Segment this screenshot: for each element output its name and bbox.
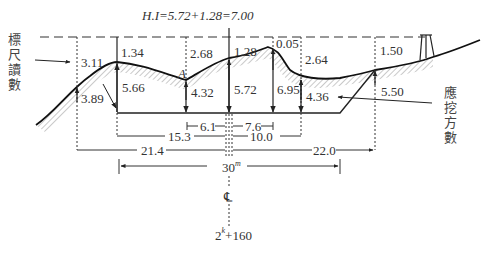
- svg-text:讀: 讀: [8, 62, 21, 77]
- rod-reading-4: 1.28: [234, 44, 257, 59]
- cut-depth-1: 3.89: [81, 91, 104, 106]
- cut-depth-4: 5.72: [234, 82, 257, 97]
- cut-depth-5: 6.95: [277, 82, 300, 97]
- svg-text:尺: 尺: [8, 47, 21, 62]
- dim-left-mid: 15.3: [168, 129, 191, 144]
- cross-section-diagram: H.I=5.72+1.28=7.00 3.11 1.34 2.68 1.28 0…: [0, 0, 501, 259]
- dim-left-inner: 6.1: [200, 119, 216, 134]
- station-label: 2k+160: [215, 226, 252, 243]
- hi-formula: H.I=5.72+1.28=7.00: [141, 8, 254, 23]
- centerline-marks: [226, 114, 232, 158]
- rod-reading-pointer: [35, 60, 70, 62]
- cut-depth-label: 應 挖 方 數: [444, 85, 457, 145]
- svg-text:數: 數: [444, 130, 457, 145]
- svg-text:數: 數: [8, 77, 21, 92]
- svg-text:挖: 挖: [444, 100, 457, 115]
- svg-text:應: 應: [444, 85, 457, 100]
- rod-reading-1: 3.11: [81, 55, 103, 70]
- left-slope-pointer: [103, 84, 116, 108]
- point-a-label: A: [177, 66, 186, 81]
- dim-left-outer: 21.4: [141, 143, 164, 158]
- rod-reading-2: 1.34: [121, 45, 144, 60]
- rod-reading-label: 標 尺 讀 數: [8, 32, 21, 92]
- cut-depth-2: 5.66: [122, 80, 145, 95]
- cut-depth-7: 5.50: [381, 84, 404, 99]
- dim-right-mid: 10.0: [250, 129, 273, 144]
- cut-depth-6: 4.36: [306, 89, 329, 104]
- cut-depth-3: 4.32: [191, 85, 214, 100]
- rod-reading-3: 2.68: [190, 46, 213, 61]
- svg-text:標: 標: [8, 32, 21, 47]
- dim-right-outer: 22.0: [313, 143, 336, 158]
- rod-reading-6: 2.64: [305, 52, 328, 67]
- centerline-symbol: ℄: [223, 189, 233, 204]
- rod-reading-7: 1.50: [380, 43, 403, 58]
- level-instrument-icon: [420, 35, 434, 60]
- dim-total-width: 30m: [222, 159, 241, 175]
- rod-reading-5: 0.05: [276, 36, 299, 51]
- svg-text:方: 方: [444, 115, 457, 130]
